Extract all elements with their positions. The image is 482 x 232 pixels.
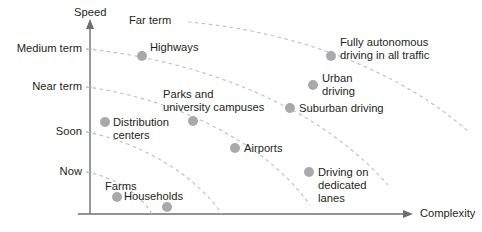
dot-dedicated-lanes bbox=[304, 167, 314, 177]
dot-distribution-centers bbox=[100, 117, 110, 127]
label-fully-autonomous-line1: Fully autonomous bbox=[340, 36, 428, 49]
label-parks-campuses-line1: Parks and bbox=[163, 88, 213, 101]
annotation-far-term: Far term bbox=[129, 14, 171, 27]
x-axis-title: Complexity bbox=[420, 207, 475, 220]
label-fully-autonomous-line2: driving in all traffic bbox=[340, 49, 429, 62]
y-axis-title: Speed bbox=[74, 6, 106, 19]
label-highways: Highways bbox=[150, 41, 199, 54]
autonomy-speed-complexity-chart: Speed Complexity Medium term Near term S… bbox=[0, 0, 482, 232]
label-households: Households bbox=[124, 190, 183, 203]
dot-suburban-driving bbox=[285, 103, 295, 113]
y-tick-near-term: Near term bbox=[0, 80, 82, 93]
label-urban-driving-line2: driving bbox=[322, 85, 355, 98]
y-tick-now: Now bbox=[0, 165, 82, 178]
label-suburban-driving: Suburban driving bbox=[299, 102, 384, 115]
dot-urban-driving bbox=[308, 80, 318, 90]
chart-canvas bbox=[0, 0, 482, 232]
label-distribution-centers-line1: Distribution bbox=[113, 116, 169, 129]
y-tick-medium-term: Medium term bbox=[0, 42, 82, 55]
label-urban-driving-line1: Urban bbox=[322, 72, 352, 85]
label-parks-campuses-line2: university campuses bbox=[163, 101, 264, 114]
label-airports: Airports bbox=[244, 142, 283, 155]
x-axis bbox=[78, 210, 413, 218]
dot-airports bbox=[230, 143, 240, 153]
label-distribution-centers-line2: centers bbox=[113, 129, 150, 142]
dot-highways bbox=[137, 51, 147, 61]
dot-parks-campuses bbox=[188, 116, 198, 126]
label-dedicated-lanes-line2: dedicated bbox=[318, 179, 367, 192]
label-dedicated-lanes-line3: lanes bbox=[318, 192, 345, 205]
y-axis bbox=[86, 19, 94, 214]
dot-fully-autonomous bbox=[326, 51, 336, 61]
y-tick-soon: Soon bbox=[0, 125, 82, 138]
label-dedicated-lanes-line1: Driving on bbox=[318, 166, 368, 179]
dot-farms bbox=[112, 192, 122, 202]
dot-households bbox=[162, 202, 172, 212]
